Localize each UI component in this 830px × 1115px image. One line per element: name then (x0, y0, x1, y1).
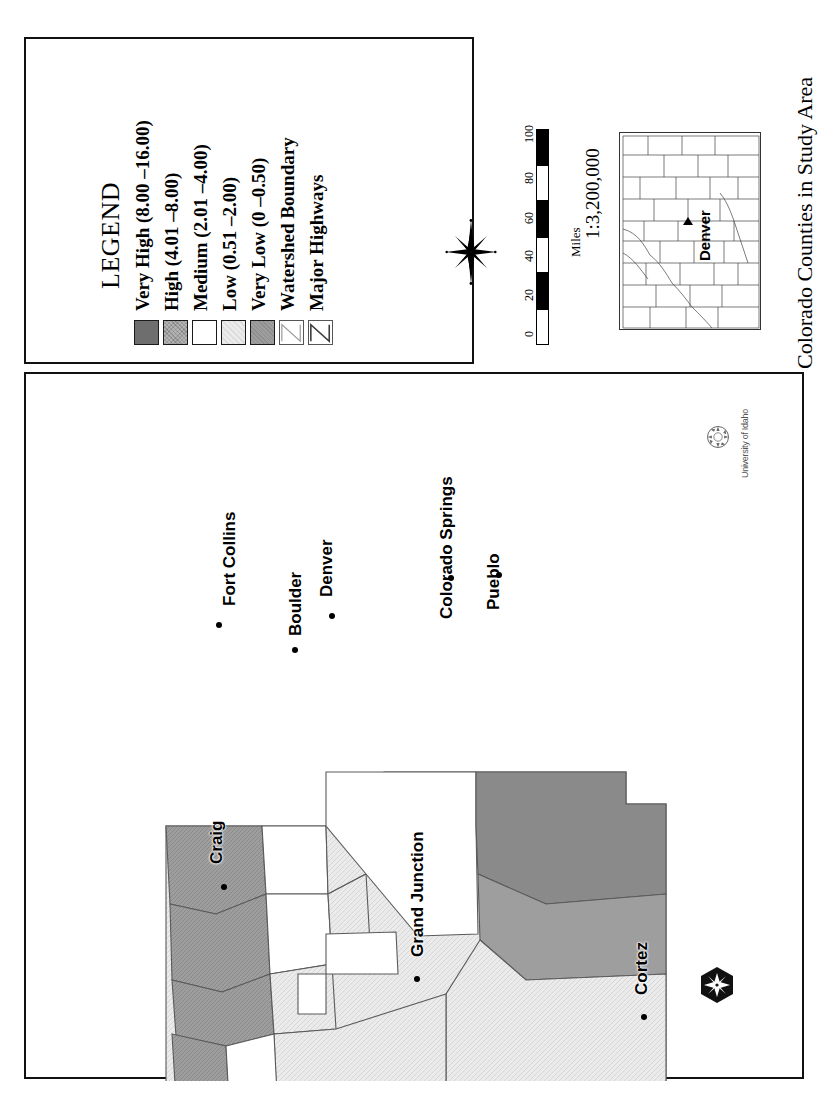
scale-bar-segment (536, 201, 549, 237)
university-of-idaho-logo (706, 425, 730, 449)
legend-panel: LEGEND Very High (8.00 –16.00) High (4.0… (24, 37, 474, 364)
legend-swatch-very-high (134, 320, 159, 345)
scale-tick-0: 0 (522, 331, 537, 337)
legend-label-low: Low (0.51 –2.00) (219, 177, 241, 311)
legend-swatch-very-low (250, 320, 275, 345)
legend-label-medium: Medium (2.01 –4.00) (190, 144, 212, 311)
legend-swatch-medium (192, 320, 217, 345)
scale-tick-100: 100 (522, 125, 537, 143)
zigzag-line-icon (308, 320, 333, 345)
city-dot-denver (329, 613, 335, 619)
choropleth-map (26, 374, 806, 1081)
legend-label-major-highways: Major Highways (306, 175, 328, 311)
scale-tick-20: 20 (522, 289, 537, 301)
legend-swatch-high (163, 320, 188, 345)
legend-label-watershed-boundary: Watershed Boundary (277, 137, 299, 311)
legend-label-very-high: Very High (8.00 –16.00) (132, 120, 154, 311)
scale-bar-segment (536, 309, 549, 345)
zigzag-line-icon (279, 320, 304, 345)
city-dot-cortez (641, 1014, 647, 1020)
scale-bar-segment (536, 237, 549, 273)
scale-tick-60: 60 (522, 212, 537, 224)
scale-bar: 100 80 60 40 20 0 Miles (518, 129, 574, 349)
inset-map-colorado-counties: Denver (619, 132, 761, 330)
scale-bar-segment (536, 165, 549, 201)
legend-swatch-low (221, 320, 246, 345)
city-dot-boulder (292, 647, 298, 653)
city-dot-fort-collins (216, 622, 222, 628)
city-dot-grand-junction (414, 976, 420, 982)
scale-bar-segment (536, 273, 549, 309)
hexagon-compass-logo (700, 966, 734, 1004)
scale-bar-segment (536, 129, 549, 165)
city-dot-colorado-springs (448, 575, 454, 581)
main-map-panel: Fort Collins Boulder Denver Colorado Spr… (24, 372, 804, 1079)
legend-title: LEGEND (96, 182, 126, 289)
inset-map-caption: Colorado Counties in Study Area (792, 77, 818, 369)
compass-rose-icon (444, 217, 498, 287)
university-of-idaho-label: University of Idaho (740, 409, 750, 478)
scale-tick-80: 80 (522, 172, 537, 184)
scale-tick-40: 40 (522, 250, 537, 262)
map-figure-page: LEGEND Very High (8.00 –16.00) High (4.0… (0, 0, 830, 1115)
city-dot-pueblo (496, 572, 502, 578)
legend-label-very-low: Very Low (0 –0.50) (248, 158, 270, 311)
scale-ratio-text: 1:3,200,000 (582, 148, 604, 239)
city-dot-craig (221, 884, 227, 890)
inset-city-label-denver: Denver (696, 210, 713, 261)
legend-label-high: High (4.01 –8.00) (161, 173, 183, 311)
